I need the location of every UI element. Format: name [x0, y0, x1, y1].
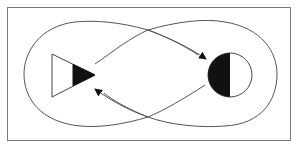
circle-dark-half — [208, 53, 230, 97]
circle-node — [208, 53, 252, 97]
top-left-to-crossing — [148, 30, 198, 55]
arrow-circle-to-triangle — [95, 85, 205, 117]
arrow-triangle-to-circle — [95, 30, 206, 64]
diagram-svg — [0, 0, 296, 147]
triangle-dark-half — [73, 64, 95, 85]
triangle-node — [52, 54, 95, 97]
bottom-right-from-crossing — [104, 93, 148, 117]
diagram-canvas — [0, 0, 296, 147]
